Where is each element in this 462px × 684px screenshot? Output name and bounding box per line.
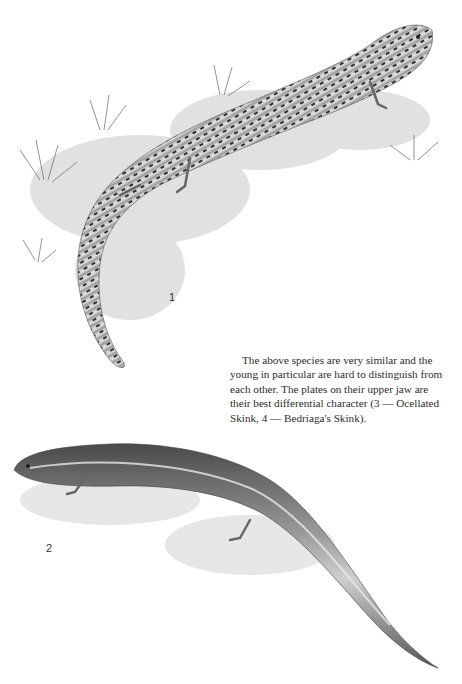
figure-number-2: 2 (46, 542, 52, 554)
illustration-plate (0, 0, 462, 684)
lizard-2-eye (26, 464, 30, 468)
lizard-1-eye (416, 35, 420, 39)
caption: The above species are very similar and t… (230, 353, 448, 425)
figure-number-1: 1 (169, 291, 175, 303)
caption-text: The above species are very similar and t… (230, 353, 448, 425)
